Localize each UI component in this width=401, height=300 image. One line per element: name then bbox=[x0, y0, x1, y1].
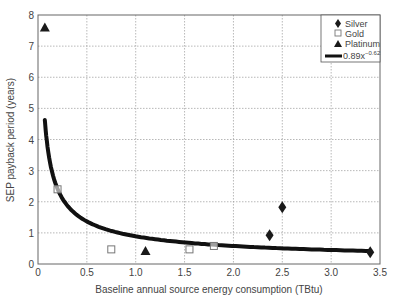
chart: 00.51.01.52.02.53.03.5 012345678 Baselin… bbox=[0, 0, 401, 300]
y-tick-label: 4 bbox=[28, 135, 34, 146]
x-tick-label: 0.5 bbox=[80, 267, 94, 278]
gold-point bbox=[108, 246, 115, 253]
x-tick-label: 2.0 bbox=[226, 267, 240, 278]
y-axis-ticks: 012345678 bbox=[28, 10, 34, 270]
platinum-point bbox=[40, 22, 50, 31]
square-icon bbox=[335, 30, 341, 36]
silver-point bbox=[266, 229, 274, 241]
legend-label-silver: Silver bbox=[345, 19, 368, 29]
gold-point bbox=[210, 242, 217, 249]
y-tick-label: 2 bbox=[28, 197, 34, 208]
x-tick-label: 3.5 bbox=[373, 267, 387, 278]
platinum-point bbox=[140, 246, 150, 255]
y-tick-label: 1 bbox=[28, 228, 34, 239]
y-axis-label: SEP payback period (years) bbox=[5, 78, 16, 202]
x-tick-label: 2.5 bbox=[275, 267, 289, 278]
gold-point bbox=[186, 246, 193, 253]
silver-point bbox=[366, 246, 374, 258]
x-tick-label: 0 bbox=[35, 267, 41, 278]
y-tick-label: 6 bbox=[28, 72, 34, 83]
y-tick-label: 0 bbox=[28, 259, 34, 270]
legend-label-gold: Gold bbox=[345, 29, 364, 39]
x-tick-label: 1.0 bbox=[129, 267, 143, 278]
x-tick-label: 3.0 bbox=[324, 267, 338, 278]
x-axis-ticks: 00.51.01.52.02.53.03.5 bbox=[35, 267, 387, 278]
legend-label-platinum: Platinum bbox=[345, 39, 380, 49]
legend: Silver Gold Platinum 0.89x−0.62 bbox=[321, 15, 381, 62]
y-tick-label: 8 bbox=[28, 10, 34, 21]
x-tick-label: 1.5 bbox=[178, 267, 192, 278]
y-tick-label: 7 bbox=[28, 41, 34, 52]
silver-point bbox=[278, 201, 286, 213]
y-tick-label: 5 bbox=[28, 103, 34, 114]
gold-point bbox=[54, 186, 61, 193]
x-axis-label: Baseline annual source energy consumptio… bbox=[95, 284, 322, 295]
y-tick-label: 3 bbox=[28, 166, 34, 177]
